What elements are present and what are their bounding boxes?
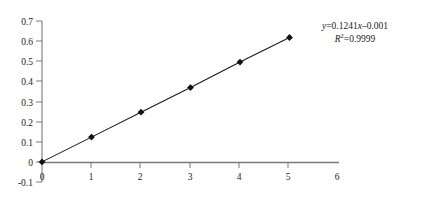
- x-tick-label: 6: [335, 172, 340, 182]
- regression-equation: y=0.1241x–0.001: [322, 20, 388, 33]
- regression-annotation: y=0.1241x–0.001 R2=0.9999: [322, 20, 388, 46]
- y-tick-label: 0.2: [21, 118, 33, 128]
- equation-intercept: –0.001: [362, 21, 388, 31]
- x-tick-label: 5: [286, 172, 291, 182]
- x-tick-label: 0: [40, 172, 45, 182]
- x-tick-label: 2: [138, 172, 143, 182]
- equation-slope: =0.1241: [326, 21, 357, 31]
- x-tick-label: 3: [188, 172, 193, 182]
- y-tick-label: 0.3: [21, 98, 33, 108]
- y-tick-label: 0.4: [21, 77, 33, 87]
- y-tick-label: 0.1: [21, 138, 33, 148]
- chart-container: 0.7 0.6 0.5 0.4 0.3 0.2 0.1 0 -0.1 0 1 2…: [0, 0, 428, 203]
- r-squared-value: R2=0.9999: [322, 33, 388, 46]
- r-squared-number: =0.9999: [344, 34, 375, 44]
- x-tick-label: 1: [89, 172, 94, 182]
- y-tick-label: 0.7: [21, 17, 33, 27]
- y-tick-label: 0.6: [21, 37, 33, 47]
- x-tick-label: 4: [237, 172, 242, 182]
- y-tick-label: 0: [28, 158, 33, 168]
- y-tick-label: 0.5: [21, 57, 33, 67]
- y-tick-label: -0.1: [18, 178, 33, 188]
